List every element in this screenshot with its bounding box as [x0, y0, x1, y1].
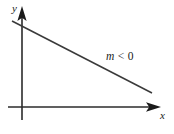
slope-annotation: m<0 [106, 50, 134, 62]
slope-annotation-number: 0 [128, 50, 134, 62]
negative-slope-figure: y x m<0 [0, 0, 174, 134]
y-axis-label: y [11, 2, 17, 14]
slope-annotation-relation: < [118, 50, 125, 62]
x-axis-label: x [159, 109, 165, 121]
coordinate-plane-svg: y x m<0 [0, 0, 174, 134]
slope-annotation-variable: m [106, 50, 114, 62]
